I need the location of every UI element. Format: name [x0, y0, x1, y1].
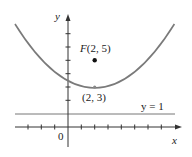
focus-coords: (2, 5) — [87, 42, 111, 54]
y-axis-arrow-icon — [66, 14, 71, 21]
focus-prefix: F — [80, 42, 87, 54]
vertex-point — [93, 85, 96, 88]
focus-point — [93, 58, 97, 62]
origin-label: 0 — [58, 131, 64, 142]
directrix-label: y = 1 — [141, 101, 164, 112]
x-axis-arrow-icon — [175, 125, 182, 130]
vertex-label: (2, 3) — [82, 92, 106, 103]
focus-label: F(2, 5) — [80, 43, 111, 54]
x-axis-label: x — [172, 135, 177, 146]
y-axis-label: y — [55, 11, 60, 22]
parabola-curve — [15, 24, 174, 88]
parabola-plot — [0, 0, 192, 157]
